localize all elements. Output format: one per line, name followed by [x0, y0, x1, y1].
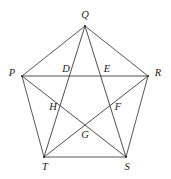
diagonal-RT: [44, 76, 148, 157]
intersection-label-d: D: [61, 63, 70, 74]
edge-PQ: [22, 26, 85, 76]
vertex-label-p: P: [8, 67, 16, 78]
vertex-label-q: Q: [81, 9, 89, 20]
geometry-figure: QRSTP DEFGH: [0, 0, 171, 179]
pentagon-diagram-svg: QRSTP DEFGH: [0, 0, 171, 179]
diagonal-QS: [85, 26, 126, 157]
edge-TP: [22, 76, 44, 157]
vertex-label-t: T: [42, 161, 49, 172]
intersection-labels-group: DEFGH: [48, 63, 122, 140]
intersection-label-h: H: [48, 101, 58, 112]
vertex-label-r: R: [154, 67, 162, 78]
edge-RS: [126, 76, 148, 157]
diagonal-PS: [22, 76, 126, 157]
intersection-label-g: G: [81, 129, 89, 140]
vertex-labels-group: QRSTP: [8, 9, 162, 172]
vertex-dot-r: [147, 75, 149, 77]
intersection-label-e: E: [103, 63, 111, 74]
vertex-label-s: S: [124, 161, 130, 172]
vertex-dot-p: [21, 75, 23, 77]
vertex-dot-s: [125, 156, 127, 158]
vertex-dot-q: [84, 25, 86, 27]
diagonal-QT: [44, 26, 85, 157]
intersection-label-f: F: [114, 101, 122, 112]
vertex-dot-t: [43, 156, 45, 158]
edge-QR: [85, 26, 148, 76]
